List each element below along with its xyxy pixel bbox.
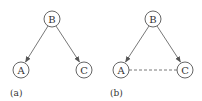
node-b: B: [145, 11, 161, 27]
node-a: A: [13, 62, 29, 78]
node-a-label: A: [16, 65, 25, 76]
node-b-label: B: [149, 14, 156, 25]
node-b-label: B: [48, 14, 55, 25]
node-c: C: [76, 62, 92, 78]
edge-b-to-a: [26, 26, 49, 62]
edge-b-to-a: [126, 26, 150, 62]
node-a-label: A: [116, 65, 125, 76]
node-a: A: [113, 62, 129, 78]
node-c-label: C: [181, 65, 189, 76]
node-c: C: [177, 62, 193, 78]
diagram-canvas: B A C (a) B A C (b): [0, 0, 202, 101]
panel-a-label: (a): [10, 88, 22, 98]
panel-b: B A C (b): [110, 11, 193, 98]
panel-b-label: (b): [110, 88, 123, 98]
node-b: B: [44, 11, 60, 27]
node-c-label: C: [80, 65, 88, 76]
edge-b-to-c: [56, 26, 80, 62]
edge-b-to-c: [157, 26, 181, 62]
panel-a: B A C (a): [10, 11, 92, 98]
